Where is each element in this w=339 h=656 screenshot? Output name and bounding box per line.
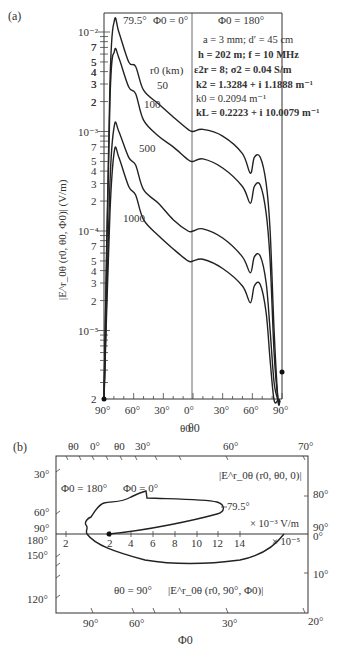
left-tick-150: 150° [27,549,48,561]
left-tick-120: 120° [27,593,48,605]
series-label-500: 500 [139,142,156,154]
panel-a-label: (a) [8,9,21,23]
y-minor-label: 3 [91,78,97,90]
bottom-tick-90: 90° [83,617,98,629]
x-tick-label: 60° [243,404,258,416]
upper-curve-label: |E^r_0θ (r0, θ0, 0)| [219,469,302,482]
left-tick-90: 90° [34,522,49,534]
h-axis-label: 8 [172,537,178,549]
top-edge-tick [155,456,157,460]
series-label-50: 50 [157,79,169,91]
top-edge-tick [79,456,81,460]
y-minor-label: 4 [91,66,97,78]
top-theta-label-1: θ0 [68,440,79,452]
top-edge-tick [120,456,122,460]
lower-lobe-curve [87,534,284,563]
bottom-edge-tick [91,608,93,613]
legend-title: r0 (km) [150,64,184,77]
y-decade-label: 10⁻³ [78,126,99,138]
unit-lower: × 10⁻⁵ [272,536,301,547]
y-minor-label: 2 [91,195,97,207]
origin-marker [102,397,107,402]
left-edge-tick [56,511,60,514]
peak-label-b: 79.5° [227,501,250,512]
y-minor-label: 3 [91,277,97,289]
top-tick-30: 30° [135,440,150,452]
y-decade-label: 10⁻² [78,26,99,38]
top-tick-60: 60° [223,440,238,452]
bottom-edge-tick [303,608,305,613]
x-axis-title-b: Φ0 [178,633,193,647]
h-axis-label: 12 [212,537,223,549]
param-line-3: ε2r = 8; σ2 = 0.04 S/m [194,64,292,75]
left-tick-60: 60° [34,506,49,518]
y-decade-label: 10⁻⁴ [78,225,99,237]
top-tick-0: 0° [90,440,100,452]
left-edge-tick [56,595,60,598]
top-edge-tick [106,456,108,460]
bottom-edge-tick [226,608,228,613]
bottom-edge-tick [132,608,134,613]
top-theta-label-2: θ0 [114,440,125,452]
x-tick-labels: 90°60°30°0°30°60°90° [95,404,288,416]
top-edge-tick [66,456,68,460]
x-tick-label: 30° [214,404,229,416]
x-tick-label: 90° [95,404,110,416]
right-tick-20: 20° [308,615,323,627]
top-edge-tick [179,456,181,460]
parameter-block: a = 3 mm; d′ = 45 cm h = 202 m; f = 10 M… [194,34,319,118]
left-tick-180: 180° [27,534,48,546]
x-ticks [104,393,282,399]
series-label-1000: 1000 [123,212,146,224]
top-tick-70: 70° [298,440,313,452]
right-tick-10: 10° [313,568,328,580]
left-edge-tick [56,575,60,578]
panel-b-plot: θ0 0° θ0 30° 60° 70° θ0 30° 60° 90° 180°… [27,422,328,647]
param-line-4: k2 = 1.3284 + i 1.1888 m⁻¹ [196,79,313,90]
y-minor-label: 4 [91,265,97,277]
left-edge-tick [56,554,60,557]
x-tick-label: 60° [125,404,140,416]
right-tick-80: 80° [313,488,328,500]
y-tick-labels: 10⁻²10⁻³10⁻⁴10⁻⁵754327543275432754322 [78,26,99,405]
h-axis-label: 6 [150,537,156,549]
y-minor-label: 2 [91,96,97,108]
figure: (a) 10⁻²10⁻³10⁻⁴10⁻⁵75432754327543275432… [0,0,339,656]
y-minor-label: 4 [91,165,97,177]
y-axis-title: |E^r_0θ (r0, θ0, Φ0)| (V/m) [56,179,69,300]
h-axis-label: 2 [107,537,113,549]
h-axis-label: 14 [234,537,246,549]
y-minor-label: 2 [91,295,97,307]
param-line-5: k0 = 0.2094 m⁻¹ [196,93,266,104]
lower-curve-label: |E^r_0θ (r0, 90°, Φ0)| [168,584,263,597]
y-minor-label: 7 [91,240,97,252]
top-edge-tick [303,456,305,460]
right-tick-0: 0° [313,530,323,542]
x-tick-label: 30° [154,404,169,416]
x-tick-label: 0° [184,404,194,416]
phi0-left-label: Φ0 = 0° [153,14,188,26]
series-label-100: 100 [144,98,161,110]
panel-b-marker [107,532,112,537]
param-line-6: kL = 0.2223 + i 10.0079 m⁻¹ [196,107,319,118]
x-tick-label: 90° [273,404,288,416]
bottom-tick-30: 30° [222,617,237,629]
y-minor-label: 7 [91,41,97,53]
param-line-1: a = 3 mm; d′ = 45 cm [203,34,293,45]
upper-lobe-curve [85,491,223,534]
bottom-edge-tick [179,608,181,613]
panel-a-plot: 10⁻²10⁻³10⁻⁴10⁻⁵754327543275432754322 90… [56,13,319,435]
h-axis-label: 4 [128,537,134,549]
h-axis-label: 2 [63,537,69,549]
peak-annotation: 79.5° [123,14,147,26]
theta-90-label: θ0 = 90° [114,584,152,596]
bottom-tick-60: 60° [129,617,144,629]
left-edge-tick [56,469,60,472]
right-marker [280,370,285,375]
unit-upper: × 10⁻³ V/m [250,518,299,529]
left-tick-30: 30° [34,468,49,480]
top-edge-tick [92,456,94,460]
param-line-2: h = 202 m; f = 10 MHz [198,49,299,60]
bottom-edge-tick [153,608,155,613]
y-decade-label: 10⁻⁵ [78,325,99,337]
